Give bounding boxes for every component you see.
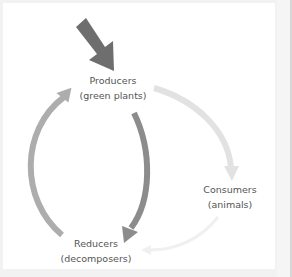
consumers-to-reducers-arrow-icon: [141, 217, 218, 255]
consumers-title: Consumers: [190, 182, 270, 197]
producers-node-label: Producers (green plants): [72, 73, 154, 103]
producers-to-reducers-arrow-icon: [122, 113, 147, 243]
reducers-title: Reducers: [52, 236, 140, 251]
reducers-subtitle: (decomposers): [52, 251, 140, 266]
cycle-diagram: [0, 0, 292, 277]
producers-title: Producers: [72, 73, 154, 88]
reducers-to-producers-arrow-icon: [31, 88, 76, 235]
energy-input-arrow-icon: [76, 18, 114, 71]
consumers-subtitle: (animals): [190, 197, 270, 212]
producers-subtitle: (green plants): [72, 88, 154, 103]
reducers-node-label: Reducers (decomposers): [52, 236, 140, 266]
consumers-node-label: Consumers (animals): [190, 182, 270, 212]
producers-to-consumers-arrow-icon: [154, 88, 239, 181]
